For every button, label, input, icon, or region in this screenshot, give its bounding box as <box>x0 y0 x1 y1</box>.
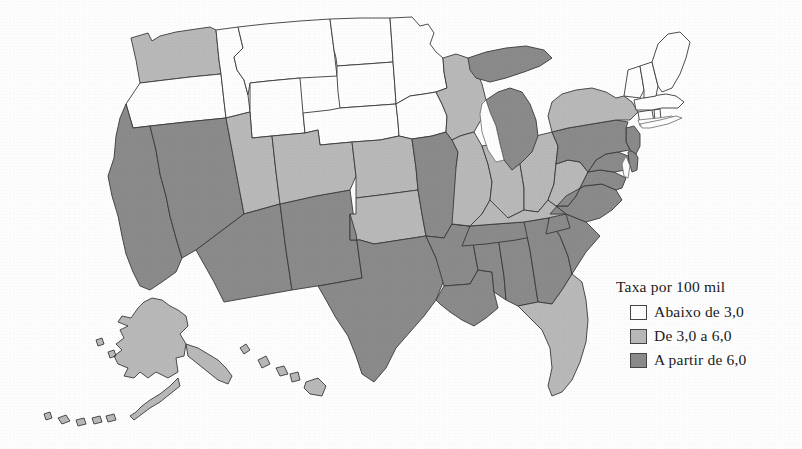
state-WY[interactable] <box>250 78 305 138</box>
us-choropleth-map <box>0 0 802 449</box>
swatch-low-icon <box>630 305 647 320</box>
legend-title: Taxa por 100 mil <box>616 278 800 296</box>
legend-item-mid[interactable]: De 3,0 a 6,0 <box>630 327 800 345</box>
choropleth-figure: Taxa por 100 mil Abaixo de 3,0 De 3,0 a … <box>0 0 802 449</box>
state-MA[interactable] <box>634 94 684 110</box>
legend: Taxa por 100 mil Abaixo de 3,0 De 3,0 a … <box>616 278 800 375</box>
legend-item-high[interactable]: A partir de 6,0 <box>630 351 800 369</box>
state-ND[interactable] <box>330 18 393 66</box>
state-SD[interactable] <box>337 62 396 108</box>
swatch-mid-icon <box>630 329 647 344</box>
state-AK[interactable] <box>96 298 188 378</box>
state-ME[interactable] <box>652 32 690 92</box>
legend-label-low: Abaixo de 3,0 <box>654 303 744 321</box>
legend-label-mid: De 3,0 a 6,0 <box>654 327 732 345</box>
state-WA[interactable] <box>131 27 221 83</box>
aleutian-islands[interactable] <box>44 378 180 426</box>
state-HI[interactable] <box>240 344 326 396</box>
swatch-high-icon <box>630 353 647 368</box>
legend-item-low[interactable]: Abaixo de 3,0 <box>630 303 800 321</box>
state-OK[interactable] <box>350 190 426 244</box>
state-AK-panhandle[interactable] <box>186 344 232 384</box>
legend-label-high: A partir de 6,0 <box>654 351 747 369</box>
state-KS[interactable] <box>352 136 418 198</box>
